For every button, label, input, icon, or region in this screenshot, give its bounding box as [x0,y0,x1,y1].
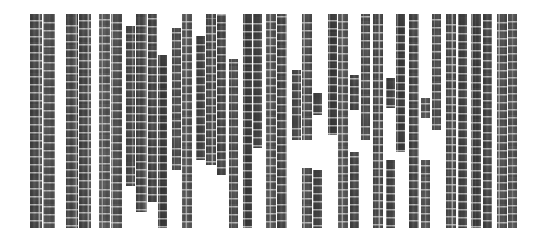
chart-column-c13 [196,36,205,127]
chart-column-c23-lower [313,170,322,228]
chart-figure [0,0,535,243]
chart-column-c4 [79,14,91,228]
chart-column-c3 [66,14,78,228]
chart-column-c21 [292,70,301,118]
chart-column-c2 [43,14,55,228]
chart-step-9 [292,118,301,140]
chart-step-7 [253,114,262,148]
chart-column-c32-upper [421,98,430,118]
chart-column-c38 [497,14,507,228]
chart-step-1 [126,157,135,186]
chart-column-c33 [432,14,441,105]
chart-column-c26-lower [350,152,359,228]
chart-column-c29-lower [386,160,395,228]
chart-column-c35 [458,14,467,228]
chart-column-c22-lower [302,168,312,228]
chart-step-3 [172,142,181,170]
chart-column-c11 [172,28,181,142]
chart-step-8 [277,200,287,228]
chart-column-c28 [373,14,383,228]
chart-step-2 [148,170,157,202]
chart-column-c25 [338,14,348,228]
chart-step-12 [396,132,405,152]
chart-column-c34 [446,14,456,228]
chart-column-c29-upper [386,78,395,108]
chart-column-c24 [328,14,337,110]
chart-column-c10 [158,55,167,228]
chart-column-c6 [111,14,122,228]
chart-step-11 [361,118,370,140]
chart-column-c31 [409,14,419,228]
chart-step-5 [217,150,226,175]
chart-column-c9 [148,14,157,170]
chart-column-c23-upper [313,93,322,115]
chart-column-c17 [243,14,252,145]
chart-column-c39 [508,14,517,228]
chart-column-c12 [182,14,192,228]
chart-column-c19 [266,14,276,228]
chart-column-c1 [30,14,42,228]
plot-area [0,0,535,243]
chart-column-c16 [229,59,238,228]
chart-step-4 [196,127,205,160]
chart-step-6 [243,145,252,228]
chart-column-c18 [253,14,262,114]
chart-column-c5 [99,14,110,186]
chart-column-c27 [361,14,370,118]
chart-column-c7 [126,26,135,157]
chart-step-0 [99,186,110,228]
chart-column-c15 [217,14,226,150]
chart-column-c30 [396,14,405,132]
chart-column-c26-upper [350,75,359,110]
chart-column-c37 [483,14,492,228]
chart-step-13 [432,105,441,130]
chart-column-c14 [206,14,216,165]
chart-step-10 [328,110,337,135]
chart-column-c32-lower [421,160,430,228]
chart-column-c8 [136,14,147,212]
chart-column-c20 [277,14,287,200]
chart-column-c36 [471,14,481,228]
chart-column-c22-upper [302,14,312,140]
